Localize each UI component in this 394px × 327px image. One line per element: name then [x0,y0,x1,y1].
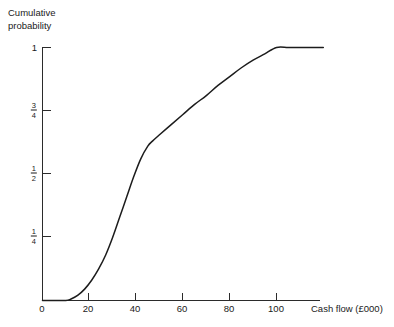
cumulative-probability-curve [43,47,324,301]
cumulative-probability-chart: Cumulative probability Cash flow (£000) … [0,0,394,327]
plot-area [0,0,394,327]
